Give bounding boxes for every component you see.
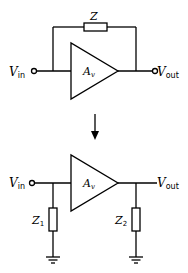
miller-diagram: Z Vin Av Vout Vin Av Vout Z1 Z2: [0, 0, 188, 273]
vin-label-top: Vin: [9, 65, 25, 80]
vin-label-bottom: Vin: [9, 176, 25, 191]
z2-resistor: [132, 208, 140, 231]
z1-label: Z1: [31, 214, 44, 228]
vout-label-top: Vout: [157, 65, 179, 80]
arrow-head-icon: [91, 131, 99, 140]
vin-terminal-top: [32, 69, 37, 74]
z-resistor: [84, 23, 107, 31]
z-label: Z: [89, 10, 98, 23]
amplifier-label-bottom: Av: [82, 177, 95, 191]
vout-label-bottom: Vout: [157, 176, 179, 191]
top-circuit: [32, 23, 158, 99]
z1-resistor: [49, 208, 57, 231]
vin-terminal-bottom: [30, 181, 35, 186]
bottom-circuit: [30, 155, 158, 263]
amplifier-label-top: Av: [82, 65, 95, 79]
z2-label: Z2: [114, 214, 127, 228]
